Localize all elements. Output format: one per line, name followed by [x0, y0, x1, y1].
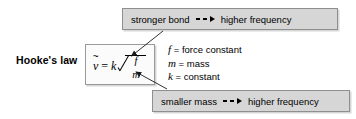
dashed-arrow-icon: [196, 15, 215, 23]
callout-top-effect: higher frequency: [221, 14, 292, 25]
callout-bottom-text: smaller mass higher frequency: [161, 96, 319, 107]
legend-definition: force constant: [182, 44, 242, 55]
wavenumber-symbol: ~v: [93, 60, 98, 72]
legend-equals: =: [174, 44, 180, 55]
callout-bottom-effect: higher frequency: [248, 96, 319, 107]
callout-bottom-cause: smaller mass: [161, 96, 217, 107]
legend-definition: mass: [187, 58, 210, 69]
fraction-numerator: f: [134, 55, 137, 66]
equals-sign: =: [101, 59, 108, 74]
dash-segment: [223, 100, 227, 101]
legend-equals: =: [176, 71, 182, 82]
legend-symbol: m: [168, 57, 176, 69]
arrow-head: [237, 98, 242, 104]
fraction: f m: [126, 57, 145, 78]
coefficient-k: k: [111, 59, 116, 74]
legend-item-m: m = mass: [168, 57, 242, 71]
equation: ~v = k f m: [93, 54, 145, 78]
dash-segment: [203, 18, 207, 19]
callout-smaller-mass: smaller mass higher frequency: [152, 90, 350, 112]
legend-symbol: k: [168, 70, 173, 82]
legend-item-f: f = force constant: [168, 43, 242, 57]
callout-top-cause: stronger bond: [131, 14, 190, 25]
legend: f = force constant m = mass k = constant: [168, 43, 242, 84]
dash-segment: [230, 100, 234, 101]
legend-equals: =: [179, 58, 185, 69]
fraction-denominator: m: [132, 69, 140, 80]
square-root-icon: f m: [118, 54, 145, 78]
radical-bar: [125, 55, 146, 56]
legend-item-k: k = constant: [168, 70, 242, 84]
arrow-head: [210, 16, 215, 22]
dash-segment: [196, 18, 200, 19]
page-title: Hooke's law: [16, 54, 77, 66]
tilde-accent: ~: [93, 52, 99, 62]
radical-sign: [118, 54, 126, 78]
legend-symbol: f: [168, 43, 171, 55]
callout-top-text: stronger bond higher frequency: [131, 14, 291, 25]
hookes-law-figure: Hooke's law ~v = k f m f = force co: [0, 0, 356, 119]
callout-stronger-bond: stronger bond higher frequency: [122, 8, 338, 30]
legend-definition: constant: [184, 71, 220, 82]
dashed-arrow-icon: [223, 97, 242, 105]
equation-box: ~v = k f m: [85, 44, 155, 85]
